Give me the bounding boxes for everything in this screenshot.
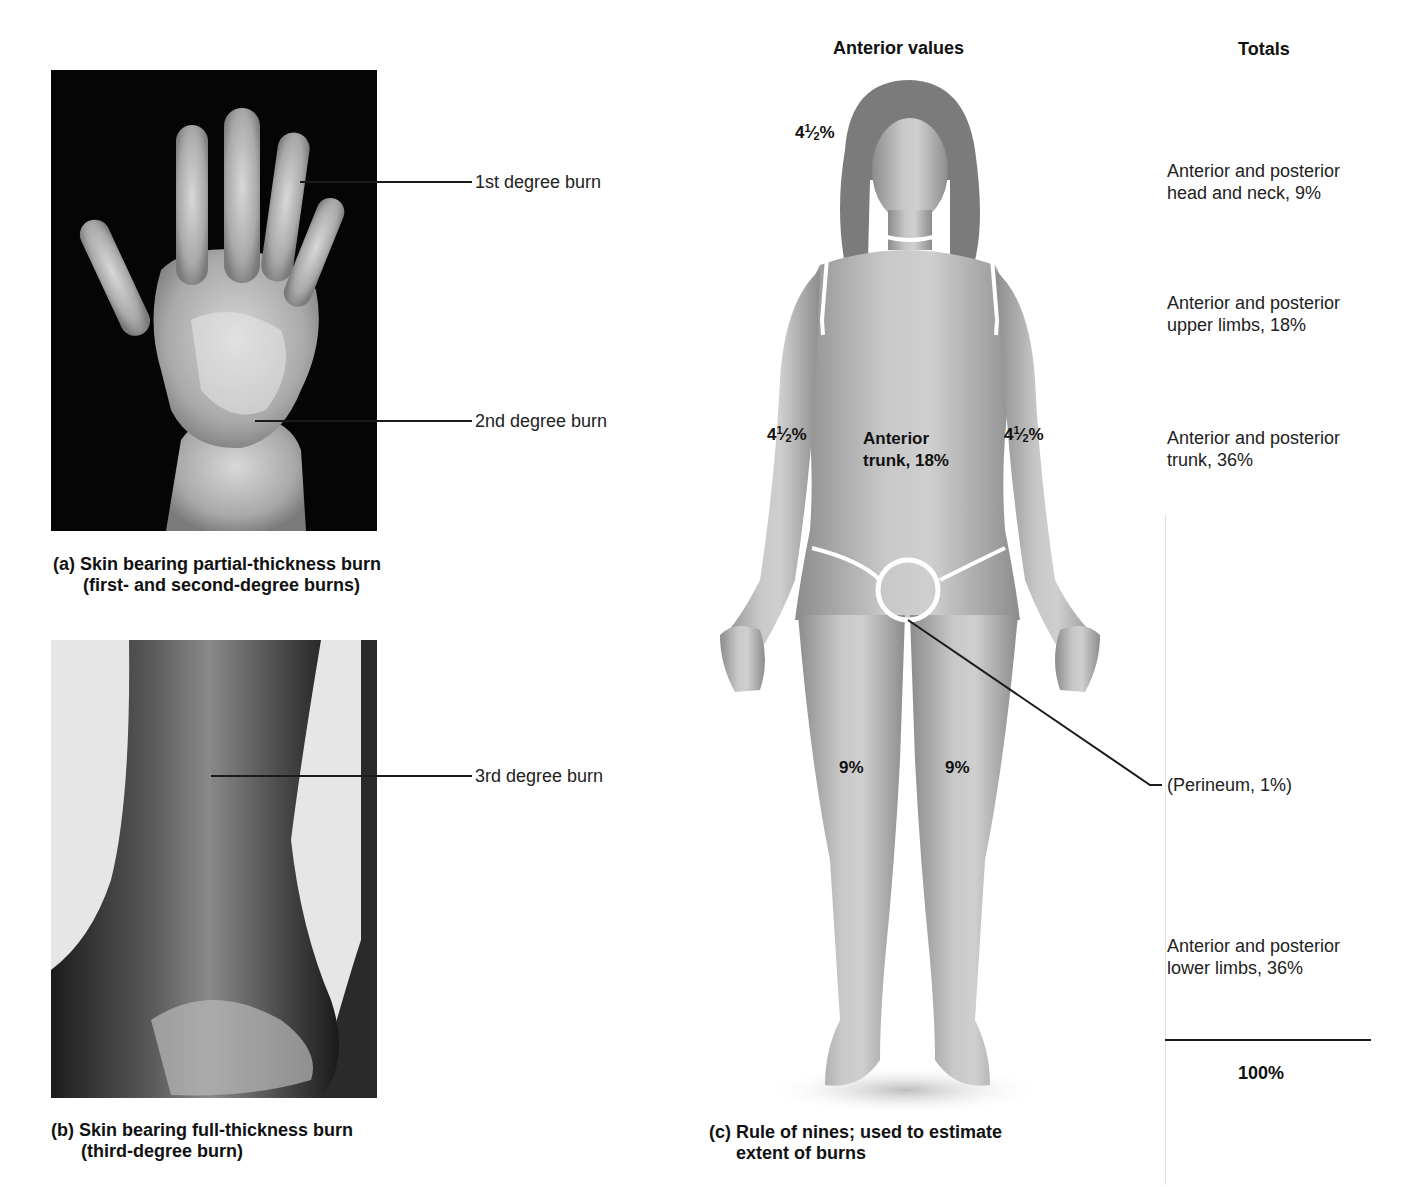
value-anterior-trunk: Anterior trunk, 18%	[863, 428, 949, 472]
value-right-leg: 9%	[945, 758, 970, 778]
value-head: 41⁄2%	[795, 122, 835, 143]
value-right-arm: 41⁄2%	[1004, 424, 1044, 445]
total-grand-total: 100%	[1238, 1063, 1284, 1084]
caption-panel-a: (a) Skin bearing partial-thickness burn …	[53, 554, 381, 596]
caption-c-line2: extent of burns	[709, 1143, 1002, 1164]
value-left-leg: 9%	[839, 758, 864, 778]
total-perineum: (Perineum, 1%)	[1167, 774, 1292, 796]
header-anterior-values: Anterior values	[833, 38, 964, 59]
label-2nd-degree-burn: 2nd degree burn	[475, 411, 607, 432]
totals-sum-line	[1165, 1039, 1371, 1041]
leader-line-3rd-degree	[211, 775, 472, 777]
label-1st-degree-burn: 1st degree burn	[475, 172, 601, 193]
caption-c-line1: (c) Rule of nines; used to estimate	[709, 1122, 1002, 1143]
caption-b-line1: (b) Skin bearing full-thickness burn	[51, 1120, 353, 1141]
leader-line-1st-degree	[300, 181, 472, 183]
total-upper-limbs: Anterior and posterior upper limbs, 18%	[1167, 292, 1340, 336]
leader-line-2nd-degree	[255, 420, 472, 422]
hand-burn-photo	[51, 70, 377, 531]
total-trunk: Anterior and posterior trunk, 36%	[1167, 427, 1340, 471]
caption-panel-c: (c) Rule of nines; used to estimate exte…	[709, 1122, 1002, 1164]
value-left-arm: 41⁄2%	[767, 424, 807, 445]
caption-panel-b: (b) Skin bearing full-thickness burn (th…	[51, 1120, 353, 1162]
leg-illustration	[51, 640, 377, 1098]
hand-illustration	[51, 70, 377, 531]
caption-b-line2: (third-degree burn)	[51, 1141, 353, 1162]
total-head-neck: Anterior and posterior head and neck, 9%	[1167, 160, 1340, 204]
caption-a-line1: (a) Skin bearing partial-thickness burn	[53, 554, 381, 575]
label-3rd-degree-burn: 3rd degree burn	[475, 766, 603, 787]
female-body-figure	[700, 60, 1120, 1110]
caption-a-line2: (first- and second-degree burns)	[53, 575, 381, 596]
leg-burn-photo	[51, 640, 377, 1098]
totals-divider-vertical	[1165, 515, 1166, 1185]
leader-line-perineum	[700, 600, 1170, 800]
total-lower-limbs: Anterior and posterior lower limbs, 36%	[1167, 935, 1340, 979]
header-totals: Totals	[1238, 39, 1290, 60]
